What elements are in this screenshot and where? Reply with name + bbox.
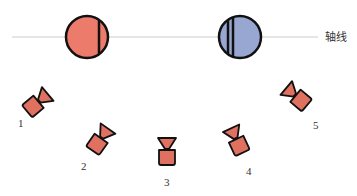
camera-4-label: 4 xyxy=(246,165,252,177)
camera-5-label: 5 xyxy=(313,119,319,131)
camera-3-label: 3 xyxy=(164,176,170,188)
camera-arrangement-diagram: 轴线 1 2 3 4 5 xyxy=(0,0,357,196)
camera-3 xyxy=(158,138,176,165)
camera-1-label: 1 xyxy=(18,117,24,129)
camera-5 xyxy=(280,81,312,112)
axis-label: 轴线 xyxy=(325,30,347,44)
camera-4 xyxy=(223,125,251,157)
camera-1 xyxy=(21,87,53,118)
camera-2-label: 2 xyxy=(81,160,87,172)
camera-2 xyxy=(85,123,115,155)
blue-circle xyxy=(219,16,261,58)
red-circle xyxy=(66,16,108,58)
